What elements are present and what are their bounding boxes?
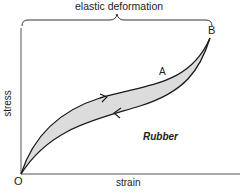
origin-label: O [14, 175, 23, 187]
x-axis-label: strain [116, 177, 140, 188]
hysteresis-loop-fill [21, 38, 210, 174]
elastic-deformation-brace [22, 14, 212, 26]
material-label: Rubber [143, 131, 178, 142]
y-axis-label: stress [2, 90, 13, 117]
point-a-label: A [159, 66, 166, 77]
point-b-label: B [208, 24, 215, 36]
diagram-title: elastic deformation [75, 0, 163, 12]
